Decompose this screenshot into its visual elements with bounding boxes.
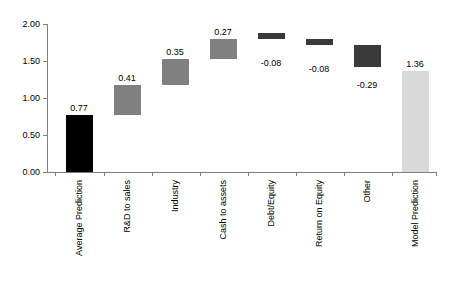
x-category-wrap-0: Average Prediction xyxy=(74,180,86,280)
x-category-label-return-on-equity: Return on Equity xyxy=(314,180,324,247)
x-tick-mark-2 xyxy=(152,172,153,176)
bar-industry xyxy=(162,59,189,85)
x-category-wrap-1: R&D to sales xyxy=(122,180,134,280)
x-tick-mark-6 xyxy=(344,172,345,176)
x-axis-line xyxy=(47,172,437,173)
value-label-cash-to-assets: 0.27 xyxy=(200,27,246,37)
x-category-wrap-5: Return on Equity xyxy=(314,180,326,280)
bar-return-on-equity xyxy=(306,39,333,45)
value-label-return-on-equity: -0.08 xyxy=(296,64,342,74)
y-tick-mark-1.50 xyxy=(43,61,47,62)
x-category-wrap-2: Industry xyxy=(170,180,182,280)
value-label-model-prediction: 1.36 xyxy=(392,59,438,69)
x-tick-mark-1 xyxy=(104,172,105,176)
bar-debt-equity xyxy=(258,33,285,39)
bar-average-prediction xyxy=(66,115,93,172)
x-category-label-model-prediction: Model Prediction xyxy=(410,180,420,247)
x-tick-mark-8 xyxy=(436,172,437,176)
y-tick-label-2.00: 2.00 xyxy=(6,20,40,29)
x-category-label-debt-equity: Debt/Equity xyxy=(266,180,276,227)
y-tick-label-0.50: 0.50 xyxy=(6,131,40,140)
y-tick-label-0.00: 0.00 xyxy=(6,168,40,177)
y-tick-mark-1.00 xyxy=(43,98,47,99)
value-label-average-prediction: 0.77 xyxy=(56,103,102,113)
x-category-label-average-prediction: Average Prediction xyxy=(74,180,84,256)
x-tick-mark-3 xyxy=(200,172,201,176)
x-tick-mark-0 xyxy=(55,172,56,176)
waterfall-chart: 2.00 1.50 1.00 0.50 0.00 0.77 0.41 0.35 … xyxy=(0,0,454,284)
y-tick-label-1.50: 1.50 xyxy=(6,57,40,66)
x-category-wrap-7: Model Prediction xyxy=(410,180,422,280)
bar-rd-to-sales xyxy=(114,85,141,115)
x-tick-mark-4 xyxy=(248,172,249,176)
x-category-label-rd-to-sales: R&D to sales xyxy=(122,180,132,233)
y-tick-label-1.00: 1.00 xyxy=(6,94,40,103)
y-axis-line xyxy=(47,24,48,172)
bar-other xyxy=(354,45,381,67)
x-category-label-cash-to-assets: Cash to assets xyxy=(218,180,228,240)
y-tick-mark-0.50 xyxy=(43,135,47,136)
x-category-label-other: Other xyxy=(362,180,372,203)
x-tick-mark-5 xyxy=(296,172,297,176)
value-label-rd-to-sales: 0.41 xyxy=(104,73,150,83)
x-category-wrap-3: Cash to assets xyxy=(218,180,230,280)
x-category-wrap-6: Other xyxy=(362,180,374,280)
value-label-other: -0.29 xyxy=(344,80,390,90)
x-category-wrap-4: Debt/Equity xyxy=(266,180,278,280)
bar-model-prediction xyxy=(402,71,429,172)
x-category-label-industry: Industry xyxy=(170,180,180,212)
value-label-industry: 0.35 xyxy=(152,47,198,57)
value-label-debt-equity: -0.08 xyxy=(248,58,294,68)
bar-cash-to-assets xyxy=(210,39,237,59)
y-tick-mark-2.00 xyxy=(43,24,47,25)
x-tick-mark-7 xyxy=(392,172,393,176)
